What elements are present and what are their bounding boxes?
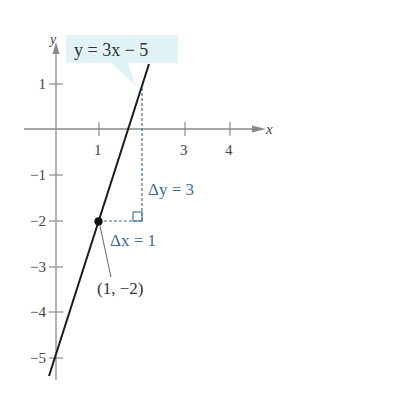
y-tick-label-neg2: −2 <box>30 213 46 229</box>
callout-pointer <box>110 62 136 86</box>
x-tick-label-4: 4 <box>225 142 233 158</box>
delta-y-label: Δy = 3 <box>148 180 194 199</box>
y-tick-label-neg4: −4 <box>30 304 46 320</box>
y-tick-label-neg3: −3 <box>30 259 46 275</box>
x-tick-label-3: 3 <box>180 142 188 158</box>
x-axis-arrow-icon <box>252 126 266 133</box>
right-angle-marker <box>133 212 142 221</box>
slope-diagram: y = 3x − 5 y x 1 3 4 1 −1 −2 −3 −4 −5 Δy… <box>0 0 397 396</box>
y-tick-label-neg5: −5 <box>30 350 46 366</box>
x-tick-label-1: 1 <box>94 142 102 158</box>
delta-x-label: Δx = 1 <box>110 231 156 250</box>
y-tick-label-neg1: −1 <box>30 167 46 183</box>
point-label: (1, −2) <box>97 279 143 298</box>
x-axis-label: x <box>265 121 273 137</box>
axes <box>24 48 258 380</box>
point-marker <box>94 217 102 225</box>
graph-canvas: y = 3x − 5 y x 1 3 4 1 −1 −2 −3 −4 −5 Δy… <box>0 0 397 396</box>
y-tick-label-1: 1 <box>39 76 47 92</box>
equation-label: y = 3x − 5 <box>74 40 148 60</box>
y-axis-label: y <box>48 32 57 47</box>
